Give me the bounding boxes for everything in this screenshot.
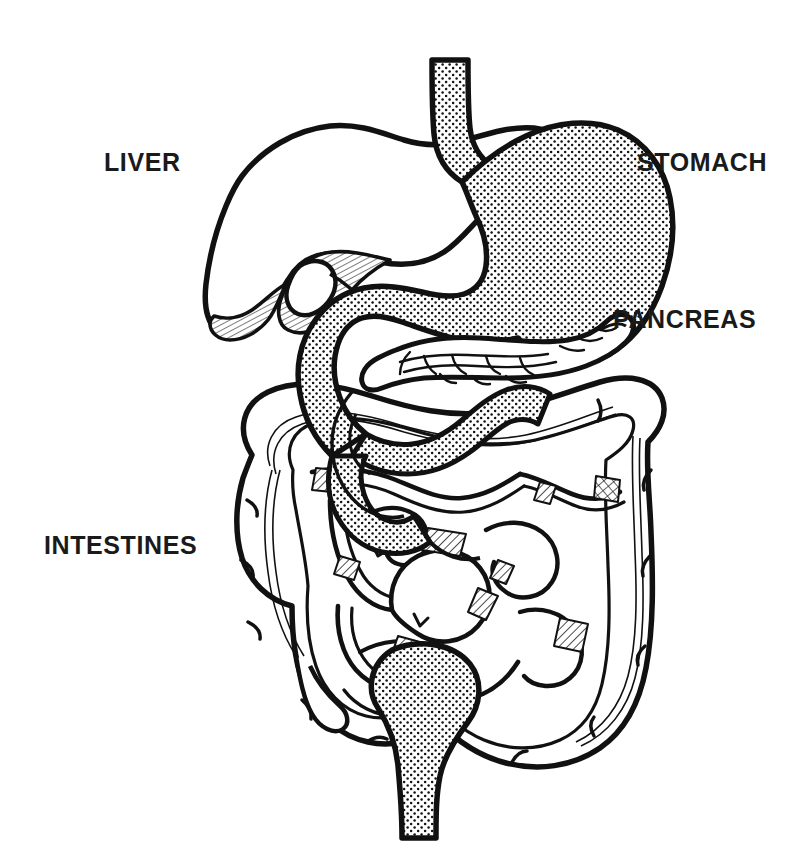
diagram-page: LIVER STOMACH PANCREAS INTESTINES [0,0,812,852]
digestive-system-figure [0,0,812,852]
si-shadow-wedge-8 [554,618,588,652]
label-intestines: INTESTINES [44,533,197,558]
label-pancreas: PANCREAS [613,307,756,332]
si-loop-right [486,523,557,598]
si-shadow-wedge-2 [594,476,620,502]
label-stomach: STOMACH [637,150,767,175]
label-liver: LIVER [104,150,181,175]
